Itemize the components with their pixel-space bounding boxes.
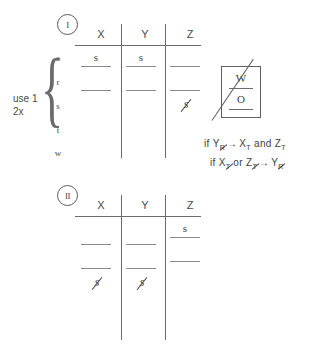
table-one-header-x: X bbox=[91, 28, 111, 40]
table-one-cell-s-z-struck-value: s bbox=[177, 97, 195, 112]
table-two-cell-r1-z-rule bbox=[170, 237, 200, 238]
table-two-cell-r2-z-rule bbox=[170, 261, 200, 262]
side-note-line-2: 2x bbox=[13, 106, 24, 117]
table-one-badge: I bbox=[57, 14, 78, 35]
table-two-divider-xy bbox=[121, 195, 122, 340]
condition-2-arrow-icon: → bbox=[257, 157, 271, 168]
table-one-cell-o-x-rule bbox=[81, 66, 111, 67]
table-two-header-z: Z bbox=[180, 199, 200, 211]
table-two-cell-r2-x-rule bbox=[81, 244, 111, 245]
condition-1-prefix: if bbox=[204, 138, 210, 149]
row-group-brace: { bbox=[41, 47, 63, 131]
table-one-cell-o-y-value: s bbox=[126, 51, 156, 63]
diagram-canvas: I X Y Z o r s t w { use 1 2x s s s W O i… bbox=[0, 0, 336, 353]
table-two-cell-r1-z-value: s bbox=[170, 222, 200, 234]
table-two-divider-yz bbox=[165, 195, 166, 340]
table-one-divider-xy bbox=[121, 24, 122, 158]
condition-1-arrow-icon: → bbox=[225, 138, 239, 149]
side-note-line-1: use 1 bbox=[13, 93, 37, 104]
condition-2-antecedent-2: ZT bbox=[246, 157, 257, 170]
table-one-cell-o-x-value: s bbox=[81, 51, 111, 63]
condition-1-antecedent: YR bbox=[213, 138, 225, 151]
condition-line-2: if XT or ZT→YR bbox=[210, 157, 284, 170]
table-two-cell-r3-x-rule bbox=[81, 268, 111, 269]
wo-box-bottom-rule bbox=[229, 109, 253, 110]
condition-1-consequent-2: ZT bbox=[275, 138, 286, 151]
condition-2-disjunction: or bbox=[233, 157, 243, 168]
condition-line-1: if YR→XT and ZT bbox=[204, 138, 286, 151]
table-one-header-y: Y bbox=[135, 28, 155, 40]
table-one-header-rule bbox=[75, 45, 201, 46]
condition-2-antecedent-1: XT bbox=[219, 157, 231, 170]
table-two-cell-r4-y-struck-value: s bbox=[133, 275, 151, 290]
condition-1-conjunction: and bbox=[254, 138, 272, 149]
table-two-header-y: Y bbox=[135, 199, 155, 211]
table-two-header-rule bbox=[75, 216, 201, 217]
condition-1-consequent-1: XT bbox=[239, 138, 251, 151]
table-two-cell-r3-y-rule bbox=[126, 268, 156, 269]
table-one-cell-o-z-rule bbox=[170, 66, 200, 67]
table-one-divider-yz bbox=[165, 24, 166, 158]
table-two-cell-r2-y-rule bbox=[126, 244, 156, 245]
condition-2-consequent: YR bbox=[271, 157, 283, 170]
condition-2-prefix: if bbox=[210, 157, 216, 168]
table-two-badge: II bbox=[57, 185, 78, 206]
table-one-cell-r-y-rule bbox=[126, 90, 156, 91]
table-one-header-z: Z bbox=[180, 28, 200, 40]
wo-box-bottom-letter: O bbox=[230, 93, 252, 105]
table-one-cell-r-x-rule bbox=[81, 90, 111, 91]
table-one-row-label-w: w bbox=[52, 148, 64, 158]
table-one-cell-o-y-rule bbox=[126, 66, 156, 67]
table-one-cell-r-z-rule bbox=[170, 90, 200, 91]
table-two-header-x: X bbox=[91, 199, 111, 211]
table-two-cell-r4-x-struck-value: s bbox=[88, 275, 106, 290]
